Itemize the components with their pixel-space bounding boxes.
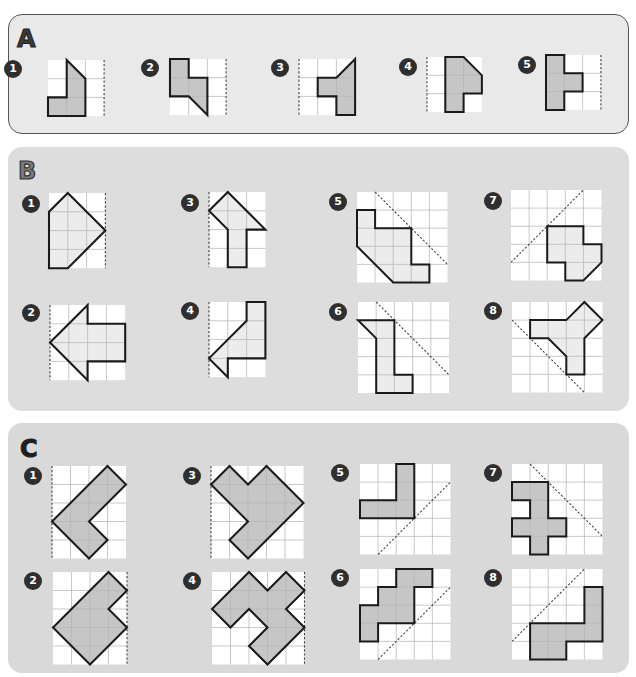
puzzle-b-6 (358, 302, 449, 393)
puzzle-number-badge: 3 (181, 194, 199, 212)
grid-figure (512, 464, 603, 555)
puzzle-number-badge: 5 (331, 464, 349, 482)
puzzle-number-badge: 5 (329, 193, 347, 211)
puzzle-number-badge: 5 (518, 56, 536, 74)
puzzle-b-2 (50, 305, 125, 380)
puzzle-c-4 (212, 572, 305, 665)
grid-figure (427, 57, 482, 112)
section-b-heading: B (18, 159, 36, 183)
puzzle-number-badge: 2 (22, 304, 40, 322)
grid-figure (512, 302, 603, 393)
puzzle-b-7 (511, 190, 602, 281)
puzzle-number-badge: 8 (484, 302, 502, 320)
grid-figure (211, 466, 304, 559)
puzzle-a-4 (427, 57, 482, 112)
puzzle-number-badge: 4 (183, 572, 201, 590)
grid-figure (360, 569, 451, 660)
grid-figure (52, 466, 126, 559)
puzzle-number-badge: 4 (399, 58, 417, 76)
puzzle-c-2 (53, 572, 127, 665)
puzzle-number-badge: 3 (183, 467, 201, 485)
puzzle-c-6 (360, 569, 451, 660)
puzzle-number-badge: 1 (22, 195, 40, 213)
puzzle-number-badge: 2 (24, 572, 42, 590)
grid-figure (209, 302, 265, 377)
grid-figure (49, 193, 105, 268)
grid-figure (511, 190, 602, 281)
grid-figure (53, 572, 127, 665)
puzzle-number-badge: 3 (271, 59, 289, 77)
puzzle-c-7 (512, 464, 603, 555)
section-a-heading: A (17, 27, 36, 51)
puzzle-number-badge: 8 (484, 569, 502, 587)
puzzle-a-1 (48, 60, 104, 116)
puzzle-c-3 (211, 466, 304, 559)
grid-figure (546, 55, 601, 110)
grid-figure (512, 569, 603, 660)
cropped-top-text (0, 0, 636, 8)
puzzle-a-5 (546, 55, 601, 110)
section-c-heading: C (20, 437, 38, 461)
puzzle-number-badge: 7 (484, 464, 502, 482)
puzzle-b-1 (49, 193, 105, 268)
puzzle-number-badge: 2 (141, 59, 159, 77)
puzzle-b-5 (357, 192, 448, 283)
puzzle-number-badge: 4 (181, 302, 199, 320)
grid-figure (358, 302, 449, 393)
grid-figure (357, 192, 448, 283)
puzzle-b-4 (209, 302, 265, 377)
puzzle-number-badge: 1 (4, 60, 22, 78)
grid-figure (170, 59, 226, 115)
puzzle-number-badge: 1 (24, 467, 42, 485)
grid-figure (50, 305, 125, 380)
grid-figure (299, 59, 355, 115)
grid-figure (209, 192, 265, 267)
puzzle-number-badge: 7 (484, 192, 502, 210)
puzzle-b-3 (209, 192, 265, 267)
grid-figure (48, 60, 104, 116)
puzzle-number-badge: 6 (331, 569, 349, 587)
grid-figure (360, 464, 451, 555)
grid-figure (212, 572, 305, 665)
puzzle-a-3 (299, 59, 355, 115)
puzzle-c-1 (52, 466, 126, 559)
puzzle-a-2 (170, 59, 226, 115)
puzzle-b-8 (512, 302, 603, 393)
puzzle-c-5 (360, 464, 451, 555)
puzzle-number-badge: 6 (329, 303, 347, 321)
puzzle-c-8 (512, 569, 603, 660)
